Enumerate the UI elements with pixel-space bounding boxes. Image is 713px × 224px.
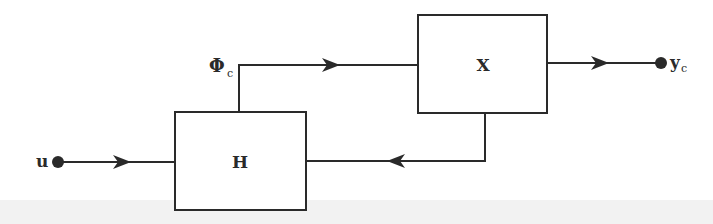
scan-shading <box>0 200 713 224</box>
output-wire <box>547 56 661 70</box>
block-h: H <box>175 112 306 210</box>
output-label-y: y <box>669 52 681 72</box>
input-label-u: u <box>36 151 48 171</box>
block-h-label: H <box>232 152 248 172</box>
phi-subscript: c <box>227 67 233 80</box>
phi-label: Φ <box>209 55 225 76</box>
block-diagram: u H Φ c X y c <box>0 0 713 224</box>
block-x: X <box>418 15 547 113</box>
phi-wire <box>239 58 418 112</box>
feedback-wire <box>306 113 485 168</box>
input-terminal-dot <box>52 156 64 168</box>
input-wire <box>58 155 175 169</box>
output-terminal-dot <box>655 57 667 69</box>
output-subscript: c <box>681 62 687 75</box>
block-x-label: X <box>476 55 490 75</box>
